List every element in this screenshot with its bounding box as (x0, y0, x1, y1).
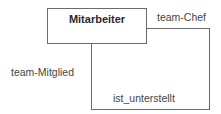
entity-title: Mitarbeiter (48, 13, 146, 25)
connector-chef-horizontal (147, 28, 210, 29)
role-label-team-chef: team-Chef (157, 11, 206, 23)
connector-bottom-horizontal (91, 109, 210, 110)
connector-left-vertical (91, 44, 92, 110)
entity-mitarbeiter: Mitarbeiter (47, 8, 147, 44)
relationship-label: ist_unterstellt (113, 92, 175, 104)
connector-right-vertical (209, 28, 210, 110)
role-label-team-mitglied: team-Mitglied (11, 66, 74, 78)
